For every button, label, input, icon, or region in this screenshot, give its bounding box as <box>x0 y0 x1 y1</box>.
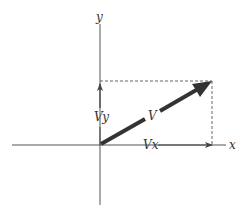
vector-v-upper <box>160 89 198 111</box>
vx-label: Vx <box>143 138 159 152</box>
vy-label: Vy <box>94 110 109 124</box>
vector-v-label: V <box>148 109 158 123</box>
y-axis-label: y <box>95 10 103 24</box>
vector-diagram: y x V Vy Vx <box>0 0 249 215</box>
x-axis-label: x <box>229 138 236 152</box>
